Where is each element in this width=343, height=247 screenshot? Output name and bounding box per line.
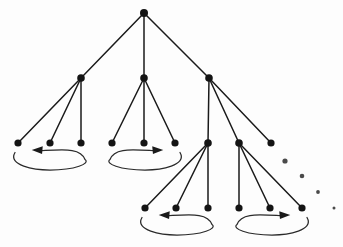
tree-node xyxy=(46,139,53,146)
loop-right-lower-arrowhead-right xyxy=(279,211,290,219)
tree-edge xyxy=(18,78,81,143)
edges-layer xyxy=(18,13,302,208)
tree-diagram-canvas xyxy=(0,0,343,247)
tree-edge xyxy=(208,78,209,143)
loop-left-upper-path xyxy=(14,150,87,170)
loop-left-upper-group xyxy=(14,146,87,170)
loop-left-lower-path xyxy=(141,215,214,235)
loop-left-upper-arrowhead-left xyxy=(32,146,43,154)
ellipsis-dot xyxy=(300,174,305,179)
tree-node xyxy=(141,204,148,211)
tree-node xyxy=(204,204,211,211)
tree-node xyxy=(171,139,178,146)
tree-node xyxy=(267,139,274,146)
ellipsis-dot xyxy=(282,158,287,163)
tree-node xyxy=(77,139,84,146)
tree-edge xyxy=(81,13,144,78)
loop-middle-upper-path xyxy=(109,150,182,170)
tree-edge xyxy=(209,78,271,143)
tree-diagram-svg xyxy=(0,0,343,247)
loop-left-lower-arrowhead-left xyxy=(159,211,170,219)
tree-node xyxy=(235,204,242,211)
tree-node xyxy=(204,139,212,147)
tree-edge xyxy=(50,78,81,143)
tree-node xyxy=(77,74,85,82)
tree-node xyxy=(140,9,148,17)
tree-node xyxy=(298,204,305,211)
loop-middle-upper-group xyxy=(109,146,182,170)
tree-edge xyxy=(209,78,239,143)
ellipsis-layer xyxy=(282,158,335,209)
tree-edge xyxy=(144,13,209,78)
tree-edge xyxy=(239,143,270,208)
tree-node xyxy=(235,139,243,147)
tree-node xyxy=(108,139,115,146)
tree-node xyxy=(205,74,213,82)
tree-node xyxy=(14,139,21,146)
tree-node xyxy=(140,139,147,146)
tree-edge xyxy=(144,78,175,143)
tree-edge xyxy=(239,143,302,208)
loop-right-lower-group xyxy=(236,211,309,235)
tree-node xyxy=(266,204,273,211)
ellipsis-dot xyxy=(333,207,336,210)
ellipsis-dot xyxy=(316,190,320,194)
loop-right-lower-path xyxy=(236,215,309,235)
loop-middle-upper-arrowhead-right xyxy=(152,146,163,154)
tree-edge xyxy=(112,78,144,143)
tree-node xyxy=(172,204,179,211)
tree-node xyxy=(140,74,148,82)
loop-left-lower-group xyxy=(141,211,214,235)
